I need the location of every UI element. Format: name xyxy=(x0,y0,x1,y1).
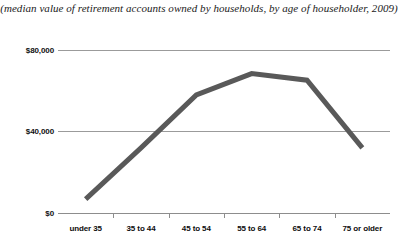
series-line-chart xyxy=(58,50,390,213)
x-tick-mark xyxy=(169,213,170,218)
plot-area xyxy=(58,50,390,213)
y-tick-label-0: $0 xyxy=(8,209,54,218)
y-tick-label-80000: $80,000 xyxy=(8,46,54,55)
x-tick-mark xyxy=(113,213,114,218)
x-axis-ticks xyxy=(58,213,390,219)
x-axis-labels: under 3535 to 4445 to 5455 to 6465 to 74… xyxy=(58,224,390,238)
x-tick-label-75-or-older: 75 or older xyxy=(342,224,382,233)
x-tick-label-55-to-64: 55 to 64 xyxy=(237,224,266,233)
x-tick-label-45-to-54: 45 to 54 xyxy=(182,224,211,233)
x-tick-mark xyxy=(224,213,225,218)
x-tick-mark xyxy=(279,213,280,218)
x-tick-label-65-to-74: 65 to 74 xyxy=(293,224,322,233)
x-tick-mark xyxy=(335,213,336,218)
x-tick-label-under-35: under 35 xyxy=(69,224,102,233)
x-tick-label-35-to-44: 35 to 44 xyxy=(127,224,156,233)
series-polyline xyxy=(86,74,363,200)
y-tick-label-40000: $40,000 xyxy=(8,127,54,136)
chart-title: (median value of retirement accounts own… xyxy=(0,2,398,14)
chart-screenshot: (median value of retirement accounts own… xyxy=(0,0,398,245)
